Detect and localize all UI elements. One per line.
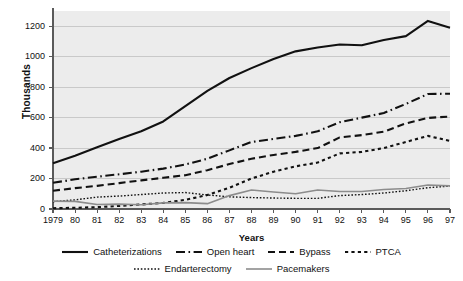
legend-row-primary: CatheterizationsOpen heartBypassPTCA: [0, 243, 463, 260]
y-tick-label: 800: [15, 83, 45, 92]
y-tick-label: 200: [15, 174, 45, 183]
legend-item-ptca[interactable]: PTCA: [345, 246, 401, 257]
legend-item-label: Open heart: [207, 246, 255, 257]
legend-swatch-solid-gray-icon: [246, 264, 272, 274]
legend-item-label: Catheterizations: [93, 246, 162, 257]
legend-swatch-dotted-thick-icon: [345, 247, 371, 257]
x-axis-title: Years: [53, 232, 450, 243]
y-tick-label: 1200: [15, 22, 45, 31]
y-tick-label: 0: [15, 205, 45, 214]
legend-item-open-heart[interactable]: Open heart: [176, 246, 255, 257]
legend-item-catheterizations[interactable]: Catheterizations: [62, 246, 162, 257]
legend-swatch-dashed-icon: [268, 247, 294, 257]
x-tick-label: 97: [430, 216, 463, 225]
legend-item-label: Pacemakers: [277, 263, 330, 274]
legend-row-secondary: EndarterectomyPacemakers: [0, 260, 463, 277]
y-tick-label: 600: [15, 113, 45, 122]
legend-item-label: Bypass: [299, 246, 330, 257]
y-tick-label: 1000: [15, 52, 45, 61]
chart-container: Thousands 020040060080010001200 19798081…: [0, 0, 463, 281]
legend-swatch-solid-icon: [62, 247, 88, 257]
legend-item-label: PTCA: [376, 246, 401, 257]
y-tick-label: 400: [15, 144, 45, 153]
chart-legend: CatheterizationsOpen heartBypassPTCA End…: [0, 243, 463, 277]
plot-background: [53, 11, 450, 209]
x-axis-ticks: [53, 209, 450, 213]
legend-swatch-dash-dot-icon: [176, 247, 202, 257]
legend-swatch-dotted-fine-icon: [134, 264, 160, 274]
legend-item-pacemakers[interactable]: Pacemakers: [246, 263, 330, 274]
legend-item-bypass[interactable]: Bypass: [268, 246, 330, 257]
legend-item-label: Endarterectomy: [165, 263, 232, 274]
legend-item-endarterectomy[interactable]: Endarterectomy: [134, 263, 232, 274]
